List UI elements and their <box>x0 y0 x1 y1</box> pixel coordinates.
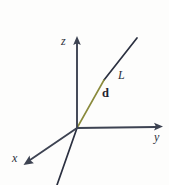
z-axis-label: z <box>61 35 66 47</box>
x-axis-arrowhead <box>24 156 34 165</box>
line-l-lower-segment <box>57 128 77 185</box>
x-axis-line <box>30 128 77 160</box>
math-figure-3d-line: z y x L d <box>0 0 169 185</box>
y-axis-label: y <box>154 131 159 143</box>
y-axis-line <box>77 127 156 128</box>
line-l-label: L <box>118 69 125 81</box>
direction-vector-d <box>77 80 104 128</box>
x-axis-label: x <box>12 152 17 164</box>
axes-diagram-canvas <box>0 0 169 185</box>
direction-vector-label: d <box>102 87 109 100</box>
